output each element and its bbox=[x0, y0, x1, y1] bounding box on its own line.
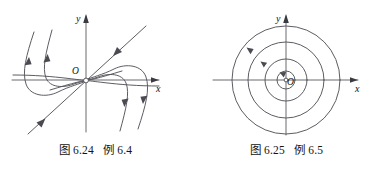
figure-6-24-caption: 图 6.24例 6.4 bbox=[0, 142, 191, 158]
orbit-family-upper-left bbox=[13, 30, 86, 95]
orbit-upper-left-inner-arrow-icon bbox=[43, 54, 50, 62]
origin-point bbox=[84, 78, 89, 83]
orbit-arrow-outer-icon bbox=[247, 48, 254, 55]
figure-6-24-plot: x y bbox=[0, 4, 191, 140]
orbit-lower-right-inner-arrow-icon bbox=[122, 99, 129, 107]
figure-6-25-plot: x y bbox=[191, 4, 382, 140]
orbit-right-flat bbox=[86, 80, 159, 86]
x-axis-label: x bbox=[155, 83, 161, 94]
figure-6-25-svg: x y bbox=[191, 4, 382, 140]
separatrix-arrow-upper-icon bbox=[113, 47, 122, 56]
x-axis-arrow-icon bbox=[350, 77, 358, 83]
origin-label: O bbox=[72, 66, 79, 76]
x-axis-label: x bbox=[354, 83, 360, 94]
y-axis-arrow-icon bbox=[83, 14, 89, 23]
figure-6-25-caption-example: 例 6.5 bbox=[294, 144, 323, 156]
figure-6-24-caption-example: 例 6.4 bbox=[103, 144, 132, 156]
figure-6-25-caption-number: 图 6.25 bbox=[250, 144, 285, 156]
y-axis-label: y bbox=[275, 13, 281, 24]
figure-6-25-panel: x y bbox=[191, 0, 382, 173]
origin-label: O bbox=[287, 77, 294, 87]
figure-6-24-caption-number: 图 6.24 bbox=[59, 144, 94, 156]
orbit-arrow-inner-icon bbox=[280, 72, 287, 77]
figure-sheet: x y bbox=[0, 0, 382, 173]
y-axis-arrow-icon bbox=[283, 14, 289, 23]
figure-6-24-svg: x y bbox=[0, 4, 191, 140]
orbit-arrow-third-icon bbox=[261, 62, 268, 68]
orbit-family-lower-right bbox=[86, 66, 159, 131]
separatrix-arrow-lower-icon bbox=[37, 119, 46, 128]
figure-6-24-panel: x y bbox=[0, 0, 191, 173]
y-axis-label: y bbox=[75, 13, 81, 24]
figure-6-25-caption: 图 6.25例 6.5 bbox=[191, 142, 382, 158]
x-axis-arrow-icon bbox=[151, 77, 159, 83]
